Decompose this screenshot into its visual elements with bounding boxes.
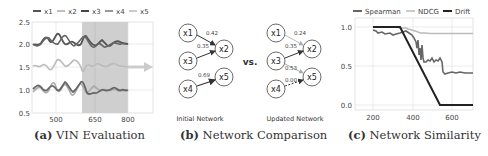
svg-text:x2: x2: [219, 45, 229, 54]
y-axis: 2.5 2.0 1.5 1.0 0.5: [19, 19, 30, 118]
svg-text:200: 200: [366, 114, 379, 122]
svg-text:1.5: 1.5: [19, 64, 30, 72]
legend: Spearman NDCG Drift: [353, 8, 471, 16]
network-similarity-chart: Spearman NDCG Drift 1.0 0.5 0.0 200 400 …: [320, 0, 488, 128]
panel-network-similarity: Spearman NDCG Drift 1.0 0.5 0.0 200 400 …: [320, 0, 488, 156]
svg-text:0.53: 0.53: [285, 65, 298, 71]
svg-text:x4: x4: [271, 85, 281, 94]
svg-text:x4: x4: [183, 85, 193, 94]
caption-a: (a) VIN Evaluation: [34, 128, 145, 142]
updated-network-label: Updated Network: [267, 115, 324, 123]
x-axis: 200 400 600: [366, 114, 458, 122]
panel-vin-evaluation: x1 x2 x3 x4 x5 2.5 2.0 1.5 1.0: [0, 0, 160, 156]
svg-text:x2: x2: [68, 8, 77, 16]
svg-text:1.0: 1.0: [341, 24, 352, 32]
svg-text:0.0: 0.0: [341, 102, 352, 110]
svg-text:x2: x2: [307, 45, 317, 54]
svg-text:400: 400: [406, 114, 419, 122]
panel-network-comparison: x1x2x3x5x4 x1x2x3x5x4 0.42 0.35 0.69 0.2…: [160, 0, 325, 156]
svg-text:x3: x3: [183, 57, 193, 66]
svg-text:0.69: 0.69: [198, 72, 211, 78]
svg-text:0.42: 0.42: [206, 30, 218, 36]
svg-text:x1: x1: [44, 8, 53, 16]
svg-text:x3: x3: [92, 8, 101, 16]
svg-text:x5: x5: [307, 73, 317, 82]
vs-label: vs.: [243, 57, 258, 67]
svg-text:Spearman: Spearman: [365, 8, 401, 16]
svg-text:Drift: Drift: [455, 8, 471, 16]
svg-text:x4: x4: [116, 8, 125, 16]
caption-b: (b) Network Comparison: [180, 128, 327, 142]
svg-text:0.35: 0.35: [197, 43, 210, 49]
svg-text:x1: x1: [183, 29, 193, 38]
svg-text:x3: x3: [271, 57, 281, 66]
initial-network-label: Initial Network: [176, 115, 223, 123]
svg-text:0.5: 0.5: [19, 110, 30, 118]
svg-text:650: 650: [88, 116, 101, 124]
svg-text:x5: x5: [219, 73, 229, 82]
legend: x1 x2 x3 x4 x5: [33, 8, 149, 16]
caption-c: (c) Network Similarity: [348, 128, 481, 142]
svg-text:0.24: 0.24: [294, 30, 307, 36]
svg-text:x5: x5: [140, 8, 149, 16]
network-comparison-diagram: x1x2x3x5x4 x1x2x3x5x4 0.42 0.35 0.69 0.2…: [160, 0, 325, 128]
svg-text:2.5: 2.5: [19, 19, 30, 27]
shaded-region: [82, 22, 128, 113]
svg-text:0.35: 0.35: [285, 43, 298, 49]
svg-text:0.5: 0.5: [341, 63, 352, 71]
svg-text:NDCG: NDCG: [418, 8, 439, 16]
svg-text:500: 500: [49, 116, 62, 124]
svg-text:1.0: 1.0: [19, 87, 30, 95]
svg-text:0.00: 0.00: [285, 77, 298, 83]
svg-text:x1: x1: [271, 29, 281, 38]
vin-evaluation-chart: x1 x2 x3 x4 x5 2.5 2.0 1.5 1.0: [0, 0, 160, 128]
svg-text:600: 600: [445, 114, 458, 122]
svg-text:800: 800: [121, 116, 134, 124]
y-axis: 1.0 0.5 0.0: [341, 24, 352, 110]
svg-text:2.0: 2.0: [19, 41, 30, 49]
x-axis: 500 650 800: [49, 116, 134, 124]
